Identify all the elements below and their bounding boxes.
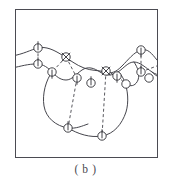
link-e [102,71,106,136]
dashed-links-group [38,48,157,136]
node-11 [137,65,145,76]
node-12-circle [145,74,153,82]
node-4 [62,53,70,61]
link-d [68,78,77,128]
node-6 [87,76,95,87]
figure-container: ( b ) [0,0,171,192]
node-8 [113,72,121,83]
figure-frame-box [15,9,158,158]
figure-caption: ( b ) [0,163,171,175]
node-7 [102,67,110,75]
node-1 [34,41,42,52]
node-15 [98,129,106,140]
node-9 [122,80,130,88]
node-14 [64,121,72,132]
node-12 [145,74,153,82]
node-5 [73,74,81,85]
contour-node-diagram [16,10,157,157]
node-9-circle [122,80,130,88]
nodes-group [34,41,157,140]
node-2 [34,57,42,68]
node-10 [137,46,145,57]
